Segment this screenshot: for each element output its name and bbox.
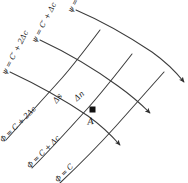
label-point-a: A <box>87 117 94 127</box>
equipotential-phi-0 <box>60 72 164 183</box>
point-a-marker <box>90 107 96 113</box>
flow-net-canvas <box>0 0 188 183</box>
flow-net-figure: ψ = C′ ψ = C′ + Δc ψ = C′ + 2Δc Φ = C + … <box>0 0 188 183</box>
streamline-psi-0 <box>76 10 184 82</box>
